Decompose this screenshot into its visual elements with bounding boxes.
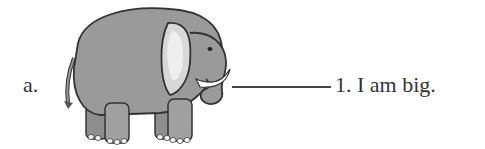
item-label: a.	[23, 70, 38, 100]
match-line	[232, 86, 331, 88]
elephant-image	[60, 3, 235, 148]
match-sentence: 1. I am big.	[335, 70, 436, 100]
